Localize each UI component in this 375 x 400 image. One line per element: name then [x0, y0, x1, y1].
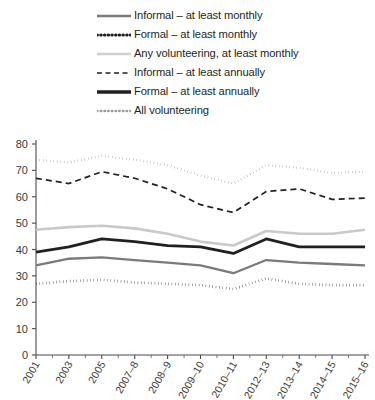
x-tick-label: 2014–15: [307, 359, 338, 400]
x-tick-label: 2015–16: [340, 359, 371, 400]
y-tick-label: 60: [16, 191, 28, 203]
legend-item-label: All volunteering: [134, 104, 209, 117]
y-tick-label: 50: [16, 217, 28, 229]
legend-item-label: Informal – at least annually: [134, 66, 265, 79]
plot-area: 010203040506070802001200320052007–82008–…: [0, 126, 375, 400]
dotted-black-line-icon: [97, 29, 131, 41]
line-chart-svg: 010203040506070802001200320052007–82008–…: [0, 126, 375, 400]
solid-lightgray-line-icon: [97, 48, 131, 60]
legend-item-label: Any volunteering, at least monthly: [134, 47, 299, 60]
solid-gray-line-icon: [97, 10, 131, 22]
chart-legend: Informal – at least monthlyFormal – at l…: [0, 6, 375, 124]
chart-figure: Informal – at least monthlyFormal – at l…: [0, 0, 375, 400]
dotted-gray-line-icon: [97, 105, 131, 117]
legend-item[interactable]: Any volunteering, at least monthly: [0, 44, 375, 63]
series-line: [36, 172, 365, 213]
series-line: [36, 257, 365, 273]
y-tick-label: 70: [16, 164, 28, 176]
y-tick-label: 30: [16, 270, 28, 282]
legend-item[interactable]: All volunteering: [0, 101, 375, 120]
y-tick-label: 20: [16, 296, 28, 308]
dashed-black-line-icon: [97, 67, 131, 79]
legend-item[interactable]: Formal – at least annually: [0, 82, 375, 101]
series-line: [36, 279, 365, 290]
x-tick-label: 2009–10: [175, 359, 206, 400]
legend-item[interactable]: Informal – at least annually: [0, 63, 375, 82]
y-tick-label: 0: [22, 349, 28, 361]
x-tick-label: 2010–11: [209, 359, 240, 400]
y-tick-label: 80: [16, 138, 28, 150]
x-tick-label: 2001: [20, 359, 42, 385]
x-tick-label: 2008–9: [145, 359, 173, 395]
legend-item[interactable]: Informal – at least monthly: [0, 6, 375, 25]
y-tick-label: 40: [16, 244, 28, 256]
x-tick-label: 2012–13: [241, 359, 272, 400]
legend-item-label: Formal – at least monthly: [134, 28, 257, 41]
x-tick-label: 2003: [53, 359, 75, 385]
series-line: [36, 156, 365, 184]
solid-black-line-icon: [97, 86, 131, 98]
legend-item[interactable]: Formal – at least monthly: [0, 25, 375, 44]
legend-item-label: Informal – at least monthly: [134, 9, 263, 22]
x-tick-label: 2005: [85, 359, 107, 385]
legend-item-label: Formal – at least annually: [134, 85, 260, 98]
y-tick-label: 10: [16, 323, 28, 335]
x-tick-label: 2007–8: [113, 359, 141, 395]
x-tick-label: 2013–14: [274, 359, 305, 400]
